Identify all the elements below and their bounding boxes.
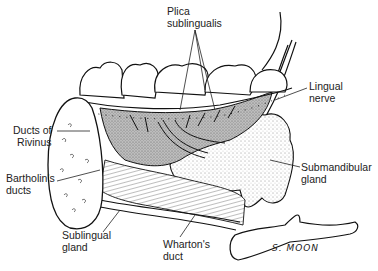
salivary-gland-diagram: Plica sublingualis Lingual nerve Ducts o… xyxy=(0,0,378,271)
label-bartholins-ducts: Bartholin's ducts xyxy=(6,172,55,196)
label-submandibular-gland: Submandibular gland xyxy=(301,161,372,185)
duct-orifice-structure xyxy=(230,215,358,260)
artist-signature: S. MOON xyxy=(272,243,319,253)
label-sublingual-gland: Sublingual gland xyxy=(62,229,111,253)
label-lingual-nerve: Lingual nerve xyxy=(309,80,343,104)
label-ducts-of-rivinus: Ducts of Rivinus xyxy=(13,124,52,148)
label-plica-sublingualis: Plica sublingualis xyxy=(167,5,222,29)
anatomy-illustration xyxy=(0,0,378,271)
label-whartons-duct: Wharton's duct xyxy=(163,238,210,262)
sublingual-gland-shape xyxy=(48,98,103,229)
